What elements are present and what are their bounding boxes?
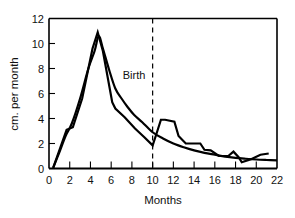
x-tick-label-0: 0 (46, 174, 52, 186)
growth-rate-chart: 024681012 0246810121416182022 Birth Mont… (0, 0, 295, 218)
x-tick-label-12: 12 (167, 174, 179, 186)
x-tick-label-18: 18 (229, 174, 241, 186)
y-tick-label-2: 2 (38, 138, 44, 150)
annotation-group: Birth (123, 69, 146, 81)
y-tick-label-12: 12 (32, 13, 44, 25)
y-axis-title: cm. per month (8, 57, 20, 131)
x-tick-label-2: 2 (67, 174, 73, 186)
y-tick-label-0: 0 (38, 163, 44, 175)
y-tick-label-4: 4 (38, 113, 44, 125)
x-tick-label-8: 8 (129, 174, 135, 186)
x-tick-label-4: 4 (87, 174, 93, 186)
x-tick-label-16: 16 (209, 174, 221, 186)
chart-canvas: 024681012 0246810121416182022 Birth Mont… (0, 0, 295, 218)
y-tick-label-8: 8 (38, 63, 44, 75)
birth-marker-label: Birth (123, 69, 146, 81)
x-tick-label-6: 6 (108, 174, 114, 186)
x-tick-label-20: 20 (250, 174, 262, 186)
x-tick-label-22: 22 (271, 174, 283, 186)
y-tick-label-10: 10 (32, 38, 44, 50)
x-axis-title: Months (144, 194, 182, 206)
y-tick-label-6: 6 (38, 88, 44, 100)
x-tick-label-10: 10 (147, 174, 159, 186)
x-tick-label-14: 14 (188, 174, 200, 186)
